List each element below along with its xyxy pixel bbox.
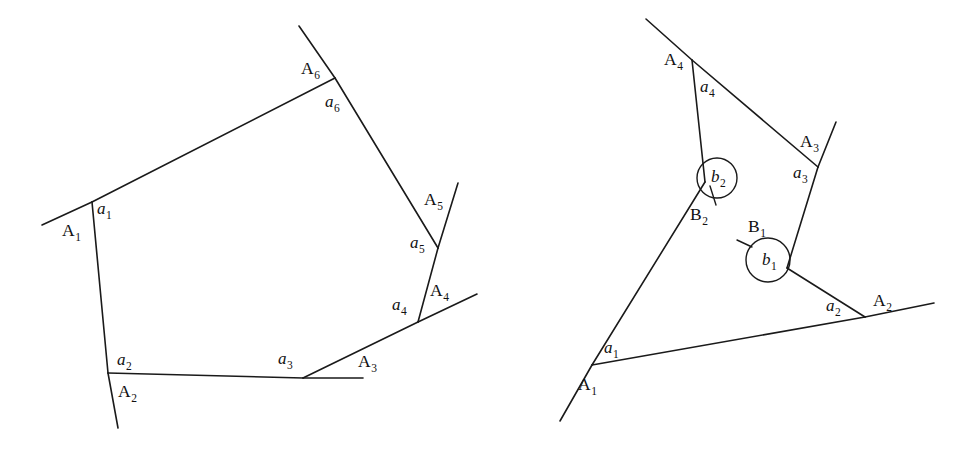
- vertex-label-sub: 2: [886, 301, 892, 313]
- vertex-label-sub: 4: [443, 291, 449, 303]
- tick-B1: [737, 240, 752, 247]
- hexagon-side-labels: a1a2a3a4a5a6: [97, 92, 425, 372]
- reflex-label-B1: B1: [748, 216, 766, 239]
- reflex-label-sub: 1: [760, 227, 766, 239]
- vertex-label-base: A: [873, 290, 886, 310]
- side-label-a1: a1: [604, 338, 619, 360]
- side-label-base: a: [604, 338, 613, 357]
- angle-label-sub: 2: [720, 177, 726, 189]
- hexagon-diagram: A1A2A3A4A5A6 a1a2a3a4a5a6: [42, 26, 477, 428]
- tick-B2: [710, 186, 716, 205]
- angle-label-base: b: [711, 167, 720, 186]
- vertex-label-sub: 1: [75, 231, 81, 243]
- edge-A1-A2: [92, 202, 108, 373]
- side-label-sub: 1: [106, 209, 112, 221]
- vertex-label-base: A: [800, 131, 813, 151]
- side-label-sub: 5: [419, 243, 425, 255]
- quadrilateral-side-labels: a1a2a3a4: [604, 77, 841, 360]
- side-label-sub: 1: [613, 348, 619, 360]
- vertex-label-A1: A1: [578, 374, 597, 397]
- vertex-label-A6: A6: [301, 58, 320, 81]
- quadrilateral-vertex-labels: A1A2A3A4: [578, 49, 892, 397]
- vertex-label-base: A: [430, 280, 443, 300]
- side-label-a3: a3: [278, 349, 293, 371]
- ray-A3: [818, 122, 836, 167]
- quadrilateral-diagram: A1A2A3A4 B1B2 a1a2a3a4 b1b2: [560, 19, 934, 421]
- reflex-label-B2: B2: [690, 204, 708, 227]
- edge-A6-A1: [92, 78, 335, 202]
- vertex-label-A2: A2: [118, 381, 137, 404]
- vertex-label-sub: 5: [437, 200, 443, 212]
- side-label-a4: a4: [392, 295, 407, 317]
- side-label-sub: 3: [802, 173, 808, 185]
- reflex-label-base: B: [690, 204, 702, 224]
- side-label-base: a: [392, 295, 401, 314]
- side-label-base: a: [278, 349, 287, 368]
- vertex-label-A5: A5: [424, 189, 443, 212]
- angle-label-sub: 1: [771, 260, 777, 272]
- side-label-a6: a6: [325, 92, 340, 114]
- side-label-a4: a4: [700, 77, 715, 99]
- side-label-base: a: [97, 199, 106, 218]
- vertex-label-A3: A3: [800, 131, 819, 154]
- ray-A5: [438, 183, 458, 248]
- vertex-label-A1: A1: [62, 220, 81, 243]
- side-label-a3: a3: [793, 163, 808, 185]
- vertex-label-A4: A4: [664, 49, 683, 72]
- vertex-label-A3: A3: [358, 351, 377, 374]
- vertex-label-sub: 6: [314, 69, 320, 81]
- side-label-base: a: [325, 92, 334, 111]
- diagram-canvas: A1A2A3A4A5A6 a1a2a3a4a5a6 A1A2A3A4 B1B2 …: [0, 0, 972, 450]
- edge-A1-A2: [592, 317, 865, 365]
- vertex-label-base: A: [301, 58, 314, 78]
- hexagon-edges: [92, 78, 438, 378]
- vertex-label-A2: A2: [873, 290, 892, 313]
- side-label-a5: a5: [410, 233, 425, 255]
- side-label-a2: a2: [117, 350, 132, 372]
- side-label-sub: 6: [334, 102, 340, 114]
- side-label-base: a: [117, 350, 126, 369]
- angle-label-b1: b1: [762, 250, 777, 272]
- figure-root: A1A2A3A4A5A6 a1a2a3a4a5a6 A1A2A3A4 B1B2 …: [0, 0, 972, 450]
- vertex-label-sub: 3: [813, 142, 819, 154]
- side-label-base: a: [826, 296, 835, 315]
- edge-A2-A3: [108, 373, 303, 378]
- vertex-label-base: A: [62, 220, 75, 240]
- reflex-label-base: B: [748, 216, 760, 236]
- angle-label-b2: b2: [711, 167, 726, 189]
- vertex-label-base: A: [118, 381, 131, 401]
- side-label-base: a: [700, 77, 709, 96]
- quadrilateral-edges: [592, 60, 865, 365]
- vertex-label-A4: A4: [430, 280, 449, 303]
- side-label-base: a: [793, 163, 802, 182]
- ray-A2: [108, 373, 118, 428]
- vertex-label-base: A: [424, 189, 437, 209]
- side-label-a2: a2: [826, 296, 841, 318]
- side-label-sub: 2: [835, 306, 841, 318]
- vertex-label-sub: 3: [371, 362, 377, 374]
- reflex-label-sub: 2: [702, 215, 708, 227]
- vertex-label-sub: 2: [131, 392, 137, 404]
- vertex-label-base: A: [578, 374, 591, 394]
- quadrilateral-reflex-labels: B1B2: [690, 204, 766, 239]
- vertex-label-base: A: [664, 49, 677, 69]
- edge-A5-A6: [335, 78, 438, 248]
- side-label-sub: 2: [126, 360, 132, 372]
- side-label-sub: 4: [401, 305, 407, 317]
- side-label-a1: a1: [97, 199, 112, 221]
- side-label-base: a: [410, 233, 419, 252]
- angle-label-base: b: [762, 250, 771, 269]
- side-label-sub: 4: [709, 87, 715, 99]
- vertex-label-sub: 4: [677, 60, 683, 72]
- vertex-label-base: A: [358, 351, 371, 371]
- quadrilateral-angle-labels: b1b2: [711, 167, 777, 272]
- side-label-sub: 3: [287, 359, 293, 371]
- vertex-label-sub: 1: [591, 385, 597, 397]
